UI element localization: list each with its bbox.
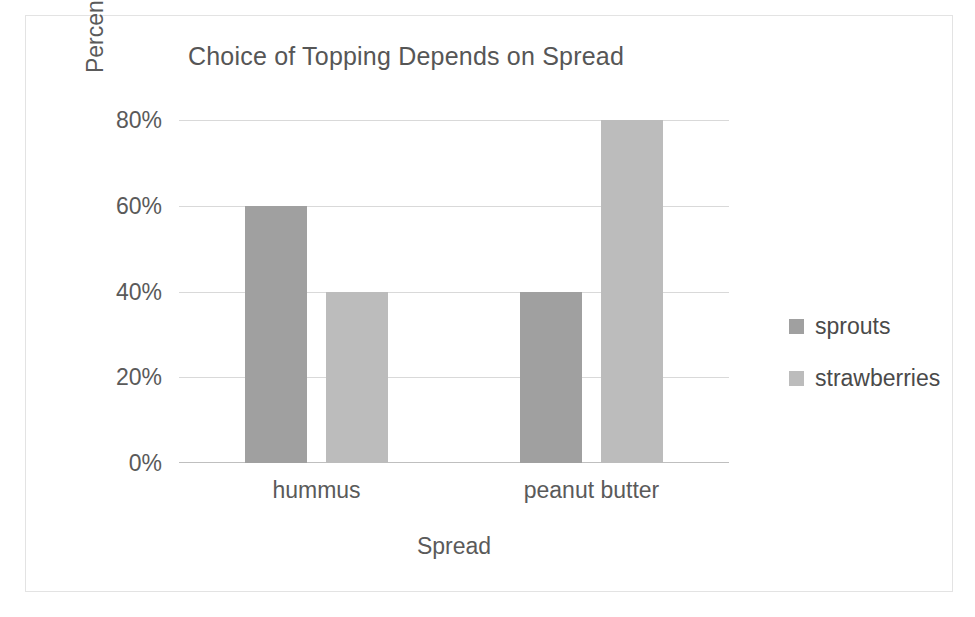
bar-hummus-strawberries[interactable]: [326, 292, 388, 464]
y-tick-label: 80%: [116, 107, 162, 134]
plot-area: 0%20%40%60%80%hummuspeanut butter: [179, 120, 729, 463]
legend-label: strawberries: [815, 365, 940, 392]
legend-swatch-icon: [789, 319, 804, 334]
y-axis-title: Percent of Students: [82, 0, 109, 132]
bar-group: [245, 120, 388, 463]
y-tick-label: 40%: [116, 278, 162, 305]
y-tick-label: 0%: [129, 450, 162, 477]
legend-swatch-icon: [789, 371, 804, 386]
legend-item-sprouts[interactable]: sprouts: [789, 313, 940, 340]
y-tick-label: 20%: [116, 364, 162, 391]
chart-figure: Choice of Topping Depends on Spread Perc…: [25, 15, 953, 592]
legend-label: sprouts: [815, 313, 890, 340]
bar-group: [520, 120, 663, 463]
bar-peanut-butter-sprouts[interactable]: [520, 292, 582, 464]
bar-hummus-sprouts[interactable]: [245, 206, 307, 463]
chart-legend: sproutsstrawberries: [789, 313, 940, 417]
chart-title: Choice of Topping Depends on Spread: [26, 42, 786, 71]
y-tick-label: 60%: [116, 192, 162, 219]
bar-peanut-butter-strawberries[interactable]: [601, 120, 663, 463]
legend-item-strawberries[interactable]: strawberries: [789, 365, 940, 392]
x-tick-label: hummus: [272, 477, 360, 504]
x-axis-title: Spread: [179, 533, 729, 560]
x-tick-label: peanut butter: [524, 477, 660, 504]
